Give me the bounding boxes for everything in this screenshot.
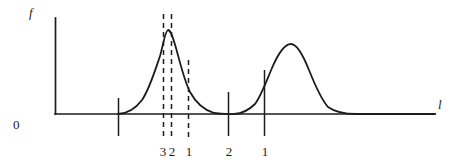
origin-label: 0 (13, 118, 20, 131)
dashed-line-label-2: 2 (169, 145, 176, 158)
distribution-curve (118, 30, 435, 114)
dashed-line-label-3: 3 (160, 145, 167, 158)
figure-plot-svg (0, 0, 455, 167)
tick-label-2: 2 (226, 145, 233, 158)
dashed-line-label-1: 1 (186, 145, 193, 158)
x-axis-label: l (438, 98, 442, 111)
figure-canvas: f l 0 3 2 1 2 1 (0, 0, 455, 167)
y-axis-label: f (29, 6, 33, 19)
tick-label-1: 1 (262, 145, 269, 158)
